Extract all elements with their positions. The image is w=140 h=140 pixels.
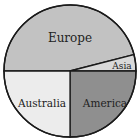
slice-label-australia: Australia	[17, 97, 66, 109]
pie-chart: EuropeAsiaAmericaAustralia	[0, 0, 140, 140]
slice-label-europe: Europe	[48, 31, 92, 45]
slice-label-asia: Asia	[111, 61, 132, 71]
slice-label-america: America	[82, 97, 127, 109]
